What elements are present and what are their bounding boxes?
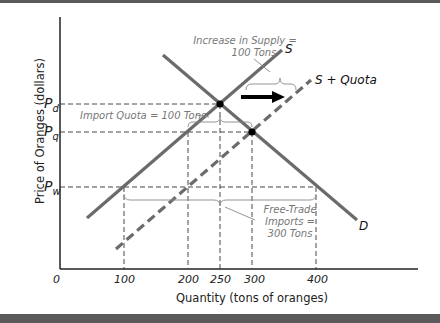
x-tick-300: 300 (244, 273, 265, 286)
import-quota-annotation: Import Quota = 100 Tons (80, 110, 206, 122)
supply-increase-line2: 100 Tons (170, 47, 320, 59)
free-trade-line3: 300 Tons (254, 228, 326, 240)
shift-arrow-icon (272, 91, 285, 103)
x-axis-title: Quantity (tons of oranges) (176, 291, 328, 305)
pd-sub: d (52, 103, 58, 114)
pq-label: Pq (44, 123, 59, 142)
bottom-border (0, 314, 440, 323)
free-trade-annotation: Free-Trade Imports = 300 Tons (254, 204, 326, 240)
pw-label: Pw (44, 178, 61, 197)
free-trade-leader (225, 207, 255, 220)
pw-sub: w (52, 186, 60, 197)
x-tick-0: 0 (53, 273, 60, 286)
demand-curve-label: D (359, 219, 368, 233)
x-tick-250: 250 (210, 273, 231, 286)
free-trade-line2: Imports = (254, 216, 326, 228)
x-tick-400: 400 (307, 273, 328, 286)
x-tick-100: 100 (114, 273, 135, 286)
domestic-equilibrium-dot (216, 100, 223, 107)
x-tick-200: 200 (178, 273, 199, 286)
pd-label: Pd (44, 95, 59, 114)
quota-equilibrium-dot (248, 128, 255, 135)
supply-increase-annotation: Increase in Supply = 100 Tons (170, 35, 320, 59)
pq-sub: q (52, 131, 58, 142)
supply-increase-line1: Increase in Supply = (170, 35, 320, 47)
supply-increase-brace (246, 78, 296, 90)
free-trade-line1: Free-Trade (254, 204, 326, 216)
supply-quota-curve-label: S + Quota (315, 73, 377, 87)
